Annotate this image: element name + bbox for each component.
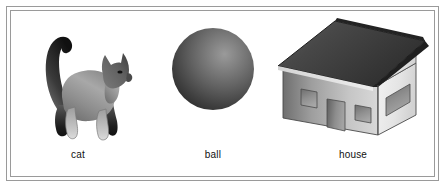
cat-muzzle [126,73,132,82]
ball-artwork [154,17,272,149]
illustration-items-row: cat ball [11,11,434,176]
house-3d-icon [273,13,433,149]
cat-head [102,53,129,88]
sphere-ball-icon [154,17,272,149]
illustration-item-house: house [273,13,433,160]
illustration-item-cat: cat [19,17,137,160]
ball-label: ball [154,149,272,160]
cat-label: cat [19,149,137,160]
house-artwork [273,13,433,149]
house-door [327,99,345,131]
cat-silhouette-icon [19,17,137,149]
illustration-item-ball: ball [154,17,272,160]
illustration-panel: cat ball [0,0,447,189]
house-window-front-right [355,105,371,123]
house-window-front-left [301,89,317,108]
cat-eye [117,70,122,73]
house-label: house [273,149,433,160]
ball-sphere [172,28,254,110]
cat-artwork [19,17,137,149]
